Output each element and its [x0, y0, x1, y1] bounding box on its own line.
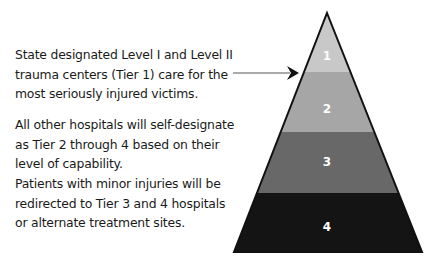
- pointer-arrow-icon: [233, 66, 299, 80]
- trauma-tier-pyramid: 1 2 3 4: [0, 0, 433, 260]
- tier-4-label: 4: [323, 220, 331, 234]
- tier-2-label: 2: [323, 102, 331, 116]
- tier-3-label: 3: [323, 155, 331, 169]
- tier-1-label: 1: [323, 49, 331, 63]
